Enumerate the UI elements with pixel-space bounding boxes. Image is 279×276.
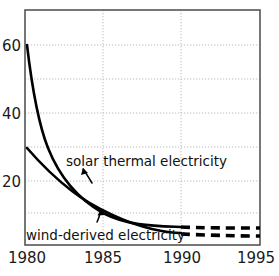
y-axis-tick-60: 60 [0,37,21,55]
series-line-solar-thermal [27,45,181,227]
x-axis-tick-1995: 1995 [233,249,279,267]
series-line-solar-thermal-projection [181,227,260,228]
horizontal-gridlines [25,45,260,213]
chart-figure: 60 40 20 1980 1985 1990 1995 solar therm… [0,0,279,276]
y-axis-tick-20: 20 [0,173,21,191]
series-label-solar-thermal: solar thermal electricity [66,153,227,169]
series-label-wind-derived: wind-derived electricity [26,227,185,243]
series-line-wind-derived-projection [181,234,260,236]
x-axis-tick-1985: 1985 [76,249,130,267]
x-axis-tick-1990: 1990 [155,249,209,267]
y-axis-tick-40: 40 [0,105,21,123]
x-axis-tick-1980: 1980 [0,249,54,267]
